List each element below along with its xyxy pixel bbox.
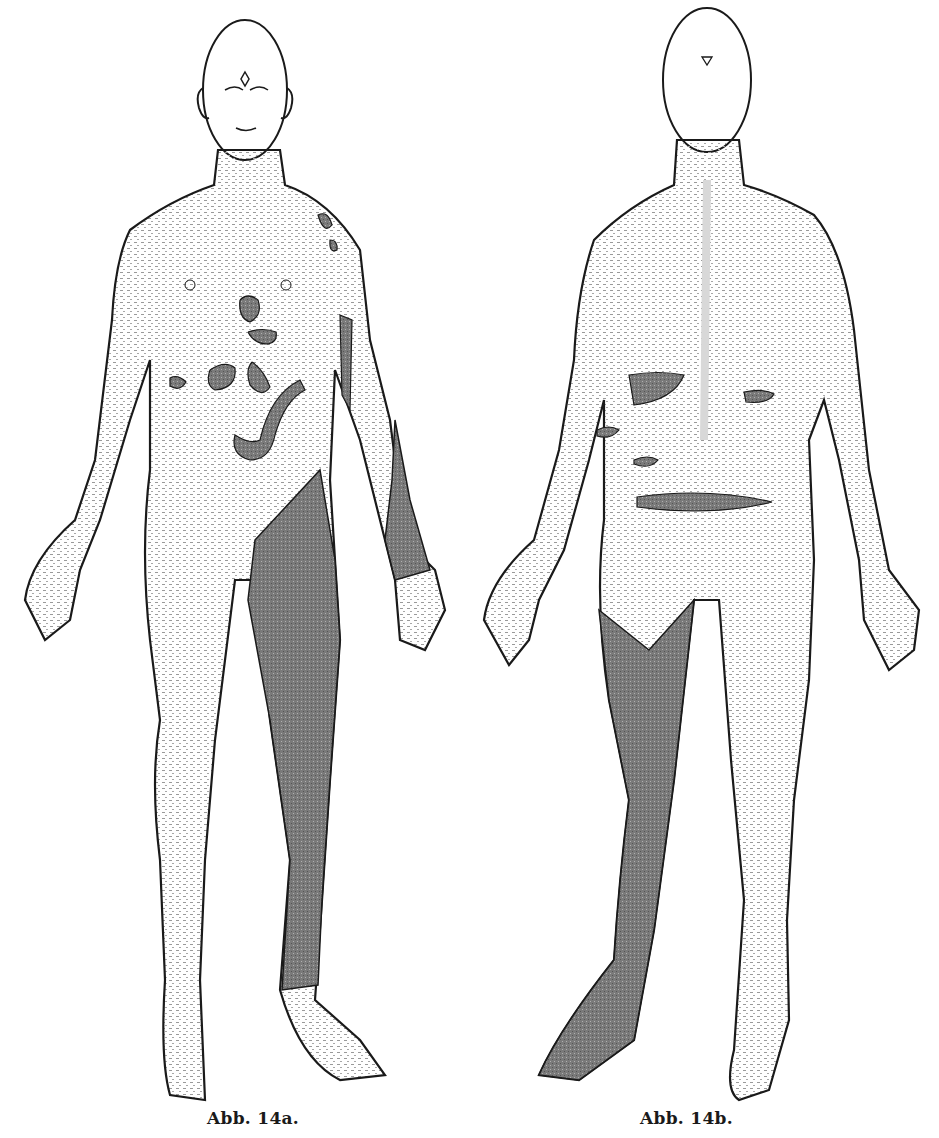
figure-14a-front-view: [0, 0, 470, 1138]
figure-14b-back-view: [469, 0, 939, 1138]
figure-caption-14a: Abb. 14a.: [207, 1108, 299, 1128]
back-body-drawing: [469, 0, 939, 1138]
figure-caption-14b: Abb. 14b.: [640, 1108, 733, 1128]
front-body-drawing: [0, 0, 470, 1138]
